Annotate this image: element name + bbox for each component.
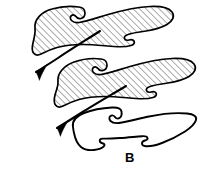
figure-label: B (125, 151, 135, 164)
figure-container: B (0, 0, 205, 173)
anatomical-line-drawing (0, 0, 205, 173)
